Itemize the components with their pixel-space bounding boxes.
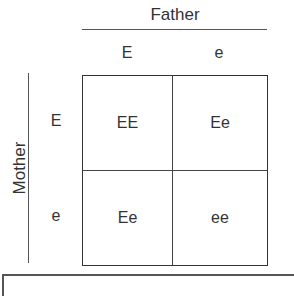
mother-allele-1: E xyxy=(46,112,66,130)
cell-ee: ee xyxy=(173,171,267,265)
cell-EE: EE xyxy=(83,76,173,171)
father-allele-2: e xyxy=(174,44,264,62)
father-divider-line xyxy=(82,29,267,30)
mother-label: Mother xyxy=(10,108,30,228)
bottom-frame-border xyxy=(2,274,294,296)
punnett-grid: EE Ee Ee ee xyxy=(82,75,268,266)
cell-Ee-bottom: Ee xyxy=(83,171,173,265)
cell-Ee-top: Ee xyxy=(173,76,267,171)
mother-allele-2: e xyxy=(46,207,66,225)
father-label: Father xyxy=(82,5,268,25)
father-allele-1: E xyxy=(82,44,172,62)
mother-divider-line xyxy=(28,73,29,263)
